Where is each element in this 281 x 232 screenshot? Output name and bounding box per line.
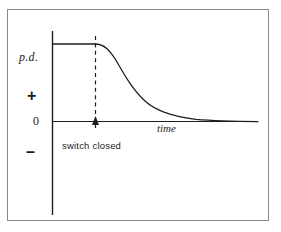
y-axis-positive-label: + <box>27 88 36 104</box>
switch-closed-arrow-icon <box>92 116 99 125</box>
decay-curve <box>95 44 258 122</box>
y-axis-negative-label: – <box>26 144 35 160</box>
pd-vs-time-plot <box>0 0 281 232</box>
figure-screenshot: p.d. + 0 – time switch closed <box>0 0 281 232</box>
y-axis-zero-label: 0 <box>33 115 39 127</box>
switch-closed-annotation-label: switch closed <box>62 141 121 151</box>
y-axis-quantity-label: p.d. <box>19 51 38 63</box>
x-axis-time-label: time <box>157 123 176 134</box>
